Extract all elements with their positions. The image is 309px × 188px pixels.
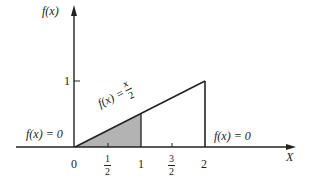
x-tick-half: 1 2 bbox=[104, 154, 111, 177]
x-tick-0: 0 bbox=[71, 157, 77, 172]
y-tick-1: 1 bbox=[64, 74, 70, 89]
y-axis-arrow-icon bbox=[71, 5, 77, 16]
left-zero-label: f(x) = 0 bbox=[26, 127, 63, 142]
pdf-graph bbox=[0, 0, 309, 188]
x-tick-three-half: 3 2 bbox=[168, 154, 175, 177]
y-axis-label: f(x) bbox=[42, 4, 59, 19]
x-axis-label: X bbox=[286, 150, 293, 165]
x-tick-1: 1 bbox=[138, 157, 144, 172]
x-tick-2: 2 bbox=[201, 157, 207, 172]
right-zero-label: f(x) = 0 bbox=[214, 129, 251, 144]
